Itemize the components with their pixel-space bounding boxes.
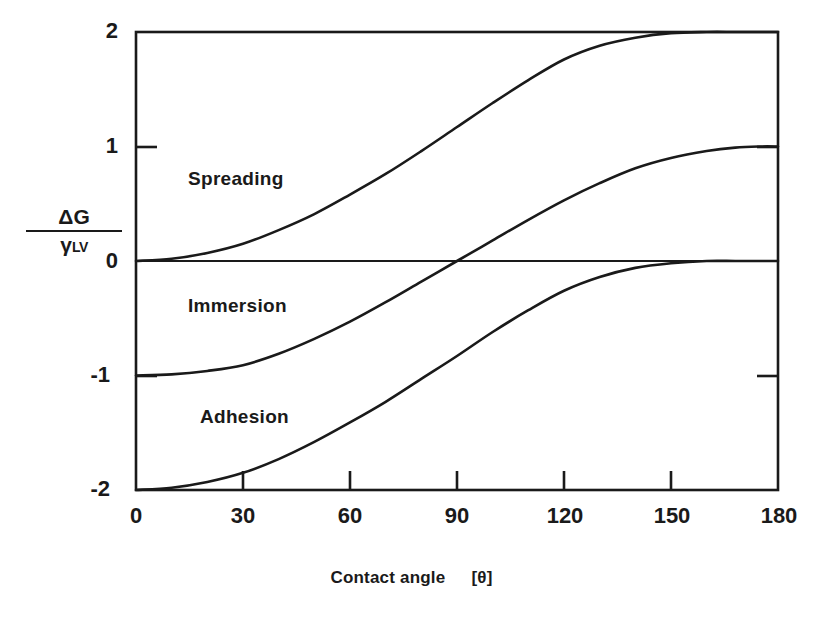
x-tick-marks bbox=[243, 471, 671, 490]
curve-adhesion bbox=[136, 261, 778, 490]
curve-spreading bbox=[136, 32, 778, 261]
plot-area bbox=[0, 0, 823, 628]
chart-figure: ΔG γLV 2 1 0 -1 -2 0 30 60 90 120 150 18… bbox=[0, 0, 823, 628]
